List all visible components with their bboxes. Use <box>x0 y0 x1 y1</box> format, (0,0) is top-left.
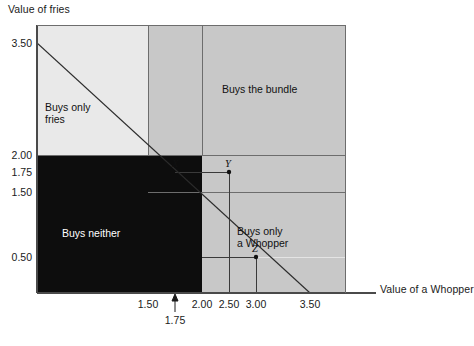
region-label-buys-only-fries: Buys only fries <box>45 101 91 125</box>
region-buys-only-fries <box>37 25 148 155</box>
point-label-X: X <box>172 158 178 169</box>
xtick-1.75-arrow <box>172 294 178 312</box>
point-marker-Y <box>227 170 231 174</box>
y-tick-label-3.50: 3.50 <box>2 37 32 49</box>
y-tick-label-2.00: 2.00 <box>2 149 32 161</box>
y-tick-label-1.50: 1.50 <box>2 186 32 198</box>
point-label-Z: Z <box>252 243 258 254</box>
region-label-buys-neither: Buys neither <box>62 227 120 239</box>
point-label-Y: Y <box>225 158 231 169</box>
y-tick-label-1.75: 1.75 <box>2 166 32 178</box>
region-fills <box>37 25 345 293</box>
x-tick-label-1.50: 1.50 <box>128 298 168 310</box>
region-buys-neither <box>37 155 202 293</box>
region-buys-only-a-whopper <box>202 155 345 293</box>
arrow-head <box>172 294 178 301</box>
y-axis-title: Value of fries <box>8 3 70 15</box>
region-label-buys-only-a-whopper: Buys only a Whopper <box>237 225 288 249</box>
x-axis-title: Value of a Whopper <box>380 283 474 295</box>
x-tick-label-1.75-annotated: 1.75 <box>155 314 195 326</box>
y-tick-label-0.50: 0.50 <box>2 251 32 263</box>
x-tick-label-3.00: 3.00 <box>236 298 276 310</box>
point-marker-Z <box>254 255 258 259</box>
x-tick-label-3.50: 3.50 <box>290 298 330 310</box>
region-label-buys-the-bundle: Buys the bundle <box>222 83 297 95</box>
